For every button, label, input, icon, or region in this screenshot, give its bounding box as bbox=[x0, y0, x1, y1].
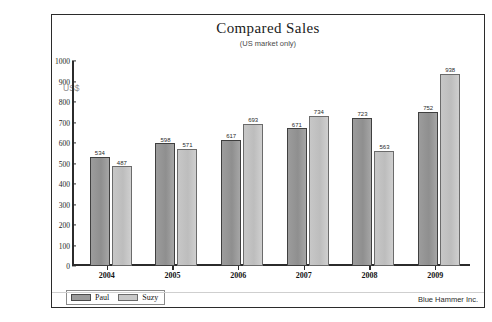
x-axis-label-2004: 2004 bbox=[99, 271, 115, 280]
bar-paul-2005[interactable]: 598 bbox=[155, 143, 175, 266]
bar-group: 6176932006 bbox=[205, 61, 271, 266]
x-axis-label-2008: 2008 bbox=[361, 271, 377, 280]
bar-group: 5344872004 bbox=[74, 61, 140, 266]
legend-item-paul[interactable]: Paul bbox=[71, 293, 109, 302]
y-axis-tick-label: 900 bbox=[48, 77, 70, 86]
bar-group: 6717342007 bbox=[271, 61, 337, 266]
bar-paul-2007[interactable]: 671 bbox=[287, 128, 307, 266]
bar-value-label: 734 bbox=[314, 109, 324, 115]
bar-paul-2009[interactable]: 752 bbox=[418, 112, 438, 266]
legend-item-suzy[interactable]: Suzy bbox=[118, 293, 158, 302]
x-axis-label-2006: 2006 bbox=[230, 271, 246, 280]
y-axis-tick-label: 200 bbox=[48, 221, 70, 230]
bar-group: 7235632008 bbox=[337, 61, 403, 266]
footer-company-label: Blue Hammer Inc. bbox=[418, 295, 478, 304]
bar-value-label: 534 bbox=[95, 150, 105, 156]
y-axis-tick-label: 600 bbox=[48, 139, 70, 148]
bar-value-label: 598 bbox=[160, 137, 170, 143]
bar-group: 5985712005 bbox=[140, 61, 206, 266]
x-axis-tick-mark bbox=[369, 266, 370, 270]
bar-suzy-2005[interactable]: 571 bbox=[177, 149, 197, 266]
bar-suzy-2009[interactable]: 938 bbox=[440, 74, 460, 266]
bar-value-label: 938 bbox=[445, 67, 455, 73]
legend-swatch-icon bbox=[118, 294, 138, 301]
bar-value-label: 571 bbox=[182, 142, 192, 148]
y-axis-tick-label: 700 bbox=[48, 118, 70, 127]
bar-value-label: 693 bbox=[248, 117, 258, 123]
bar-suzy-2008[interactable]: 563 bbox=[374, 151, 394, 266]
bar-value-label: 563 bbox=[379, 144, 389, 150]
bar-value-label: 487 bbox=[117, 160, 127, 166]
bar-paul-2004[interactable]: 534 bbox=[90, 157, 110, 266]
x-axis-label-2005: 2005 bbox=[164, 271, 180, 280]
bar-paul-2008[interactable]: 723 bbox=[352, 118, 372, 266]
bar-value-label: 723 bbox=[357, 111, 367, 117]
bar-groups: 5344872004598571200561769320066717342007… bbox=[74, 61, 468, 266]
bar-value-label: 671 bbox=[292, 122, 302, 128]
y-axis-tick-label: 0 bbox=[48, 262, 70, 271]
chart-title: Compared Sales bbox=[52, 20, 484, 37]
chart-subtitle: (US market only) bbox=[52, 39, 484, 48]
bar-value-label: 752 bbox=[423, 105, 433, 111]
bar-suzy-2004[interactable]: 487 bbox=[112, 166, 132, 266]
plot-area: US$ 01002003004005006007008009001000 534… bbox=[72, 61, 468, 266]
y-axis-tick-label: 400 bbox=[48, 180, 70, 189]
bar-suzy-2007[interactable]: 734 bbox=[309, 116, 329, 266]
legend-label: Suzy bbox=[142, 293, 158, 302]
x-axis-tick-mark bbox=[304, 266, 305, 270]
bar-suzy-2006[interactable]: 693 bbox=[243, 124, 263, 266]
bar-group: 7529382009 bbox=[402, 61, 468, 266]
x-axis-tick-mark bbox=[172, 266, 173, 270]
x-axis-label-2007: 2007 bbox=[296, 271, 312, 280]
y-axis-tick-label: 1000 bbox=[48, 57, 70, 66]
y-axis-tick-label: 100 bbox=[48, 241, 70, 250]
footer-divider bbox=[52, 292, 484, 293]
y-axis-tick-label: 300 bbox=[48, 200, 70, 209]
legend-label: Paul bbox=[95, 293, 109, 302]
x-axis-tick-mark bbox=[435, 266, 436, 270]
bar-paul-2006[interactable]: 617 bbox=[221, 140, 241, 266]
x-axis-tick-mark bbox=[238, 266, 239, 270]
x-axis-label-2009: 2009 bbox=[427, 271, 443, 280]
y-axis-tick-label: 800 bbox=[48, 98, 70, 107]
x-axis-tick-mark bbox=[107, 266, 108, 270]
y-axis-tick-label: 500 bbox=[48, 159, 70, 168]
legend-swatch-icon bbox=[71, 294, 91, 301]
chart-frame: Compared Sales (US market only) US$ 0100… bbox=[51, 14, 485, 308]
bar-value-label: 617 bbox=[226, 133, 236, 139]
